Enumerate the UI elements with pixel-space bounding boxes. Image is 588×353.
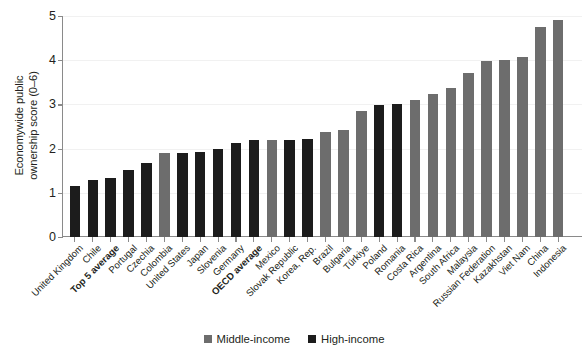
bar: [231, 143, 242, 237]
y-axis-tick-label: 5: [16, 9, 56, 23]
bar: [320, 132, 331, 237]
x-axis-tick: [146, 237, 147, 242]
bar-series-group: [62, 16, 582, 237]
x-axis-tick: [504, 237, 505, 242]
bar: [463, 73, 474, 237]
chart-legend: Middle-incomeHigh-income: [0, 333, 588, 345]
x-axis-tick: [92, 237, 93, 242]
x-axis-tick: [414, 237, 415, 242]
bar-chart: Economywide public ownership score (0–6)…: [0, 0, 588, 353]
x-axis-tick: [325, 237, 326, 242]
bar: [553, 20, 564, 237]
legend-swatch: [308, 335, 316, 343]
x-axis-tick: [218, 237, 219, 242]
x-axis-tick: [289, 237, 290, 242]
bar: [123, 170, 134, 237]
legend-item: High-income: [308, 333, 384, 345]
x-axis-tick: [253, 237, 254, 242]
legend-item: Middle-income: [204, 333, 290, 345]
bar: [499, 60, 510, 237]
bar: [195, 152, 206, 237]
legend-swatch: [204, 335, 212, 343]
x-axis-tick: [361, 237, 362, 242]
x-axis-tick: [235, 237, 236, 242]
bar: [374, 105, 385, 237]
x-axis-tick: [271, 237, 272, 242]
bar: [517, 57, 528, 237]
bar: [213, 149, 224, 237]
x-axis-tick: [450, 237, 451, 242]
x-axis-tick: [558, 237, 559, 242]
bar: [428, 94, 439, 237]
x-axis-tick: [486, 237, 487, 242]
bar: [392, 104, 403, 237]
bar: [141, 163, 152, 237]
y-axis-tick-label: 4: [16, 53, 56, 67]
x-axis-tick: [468, 237, 469, 242]
x-axis-tick: [110, 237, 111, 242]
bar: [284, 140, 295, 237]
y-axis-tick-label: 3: [16, 97, 56, 111]
legend-label: Middle-income: [217, 333, 290, 345]
y-axis-tick-label: 0: [16, 230, 56, 244]
bar: [356, 111, 367, 237]
bar: [105, 178, 116, 237]
bar: [70, 186, 81, 237]
legend-label: High-income: [321, 333, 384, 345]
y-axis-tick-label: 1: [16, 186, 56, 200]
x-axis-tick: [200, 237, 201, 242]
y-axis-tick-labels: 012345: [12, 16, 56, 237]
x-axis-tick: [397, 237, 398, 242]
bar: [267, 140, 278, 237]
x-axis-tick: [307, 237, 308, 242]
bar: [177, 153, 188, 237]
y-axis-tick-label: 2: [16, 142, 56, 156]
x-axis-tick-labels: United KingdomChileTop 5 averagePortugal…: [62, 243, 582, 325]
bar: [159, 153, 170, 237]
x-axis-tick: [128, 237, 129, 242]
x-axis-tick: [522, 237, 523, 242]
x-axis-tick: [164, 237, 165, 242]
x-axis-tick: [343, 237, 344, 242]
x-axis-tick: [74, 237, 75, 242]
x-axis-tick: [432, 237, 433, 242]
x-axis-tick: [182, 237, 183, 242]
bar: [410, 100, 421, 237]
bar: [481, 61, 492, 237]
bar: [338, 130, 349, 237]
x-axis-tick: [540, 237, 541, 242]
bar: [535, 27, 546, 237]
bar: [302, 139, 313, 237]
x-axis-tick: [379, 237, 380, 242]
bar: [88, 180, 99, 237]
bar: [446, 88, 457, 237]
bar: [249, 140, 260, 237]
